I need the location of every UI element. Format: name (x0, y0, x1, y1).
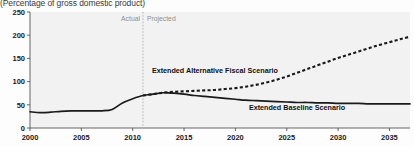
y-tick-label: 150 (12, 54, 25, 63)
y-tick-label: 0 (21, 124, 25, 133)
chart-figure: (Percentage of gross domestic product) 0… (0, 0, 414, 147)
line-chart: 050100150200250 200020052010201520202025… (0, 0, 414, 147)
x-tick-label: 2030 (330, 133, 347, 142)
projected-label: Projected (147, 15, 176, 23)
series-label-alternative-fiscal: Extended Alternative Fiscal Scenario (152, 66, 279, 75)
x-tick-label: 2005 (73, 133, 90, 142)
y-tick-label: 100 (12, 77, 25, 86)
y-axis-ticks: 050100150200250 (12, 8, 30, 133)
x-axis-ticks: 20002005201020152020202520302035 (22, 128, 398, 142)
x-tick-label: 2015 (176, 133, 193, 142)
y-tick-label: 50 (17, 101, 25, 110)
x-tick-label: 2025 (278, 133, 295, 142)
x-tick-label: 2035 (381, 133, 398, 142)
x-tick-label: 2000 (22, 133, 39, 142)
actual-label: Actual (121, 15, 140, 22)
y-tick-label: 250 (12, 8, 25, 17)
plot-area: 050100150200250 200020052010201520202025… (0, 0, 414, 147)
series-label-baseline: Extended Baseline Scenario (249, 103, 346, 112)
x-tick-label: 2010 (124, 133, 141, 142)
y-tick-label: 200 (12, 31, 25, 40)
x-tick-label: 2020 (227, 133, 244, 142)
